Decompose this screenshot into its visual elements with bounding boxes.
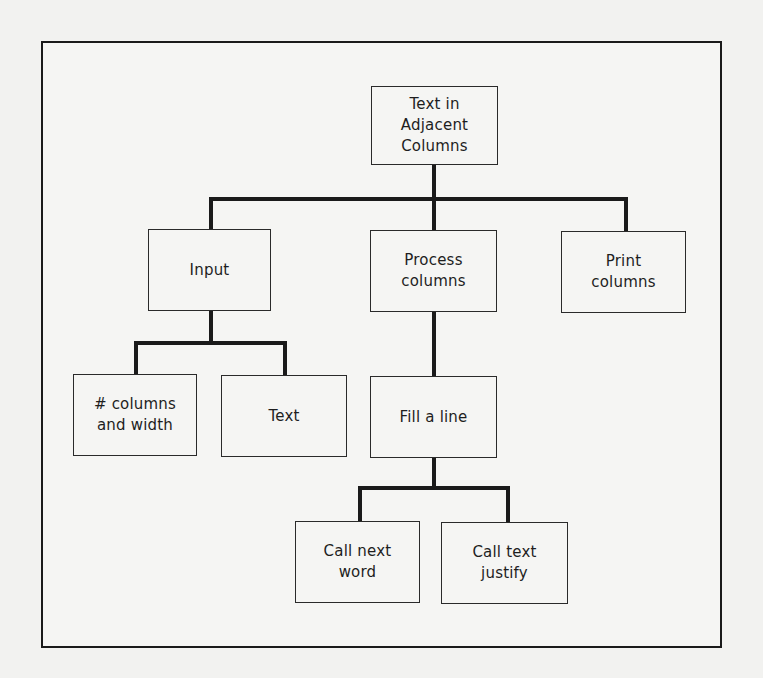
node-columns-and-width: # columns and width: [73, 374, 197, 456]
node-process-columns: Process columns: [370, 230, 497, 312]
node-call-text-justify: Call text justify: [441, 522, 568, 604]
node-call-next-word: Call next word: [295, 521, 420, 603]
node-fill-a-line: Fill a line: [370, 376, 497, 458]
node-print-columns: Print columns: [561, 231, 686, 313]
node-text: Text: [221, 375, 347, 457]
node-input: Input: [148, 229, 271, 311]
node-root: Text in Adjacent Columns: [371, 86, 498, 165]
